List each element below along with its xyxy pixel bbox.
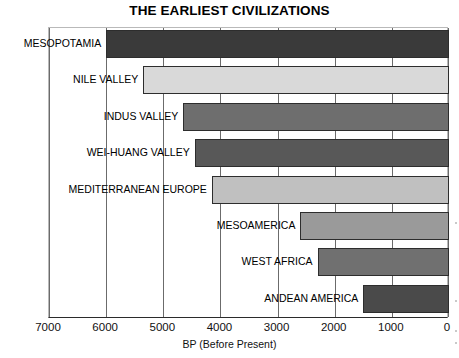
bar-andean-america[interactable] (363, 285, 449, 313)
bar-label-mediterranean-europe: MEDITERRANEAN EUROPE (0, 183, 207, 195)
chart-container: THE EARLIEST CIVILIZATIONS MESOPOTAMIANI… (0, 0, 459, 358)
x-tick-label-6000: 6000 (80, 321, 130, 333)
bars-layer (49, 28, 447, 317)
bar-mediterranean-europe[interactable] (212, 176, 449, 204)
plot-area (48, 27, 448, 318)
edge-marker (455, 342, 457, 344)
bar-label-indus-valley: INDUS VALLEY (0, 110, 178, 122)
edge-marker (455, 330, 457, 332)
bar-mesopotamia[interactable] (106, 30, 449, 58)
x-axis-title: BP (Before Present) (0, 338, 459, 350)
bar-label-andean-america: ANDEAN AMERICA (0, 292, 358, 304)
bar-wei-huang-valley[interactable] (195, 139, 449, 167)
bar-label-mesopotamia: MESOPOTAMIA (0, 37, 101, 49)
bar-mesoamerica[interactable] (300, 212, 449, 240)
bar-nile-valley[interactable] (143, 66, 449, 94)
edge-marker (455, 300, 457, 302)
x-tick-label-3000: 3000 (252, 321, 302, 333)
bar-label-wei-huang-valley: WEI-HUANG VALLEY (0, 146, 190, 158)
bar-label-nile-valley: NILE VALLEY (0, 73, 138, 85)
bar-west-africa[interactable] (318, 248, 449, 276)
x-tick-label-1000: 1000 (366, 321, 416, 333)
x-tick-label-0: 0 (422, 321, 459, 333)
x-tick-label-7000: 7000 (23, 321, 73, 333)
bar-indus-valley[interactable] (183, 103, 449, 131)
x-tick-label-5000: 5000 (137, 321, 187, 333)
chart-title: THE EARLIEST CIVILIZATIONS (0, 3, 459, 18)
x-tick-label-4000: 4000 (194, 321, 244, 333)
edge-marker (455, 222, 457, 224)
bar-row (49, 30, 447, 58)
x-tick-label-2000: 2000 (309, 321, 359, 333)
bar-label-west-africa: WEST AFRICA (0, 255, 313, 267)
bar-label-mesoamerica: MESOAMERICA (0, 219, 295, 231)
